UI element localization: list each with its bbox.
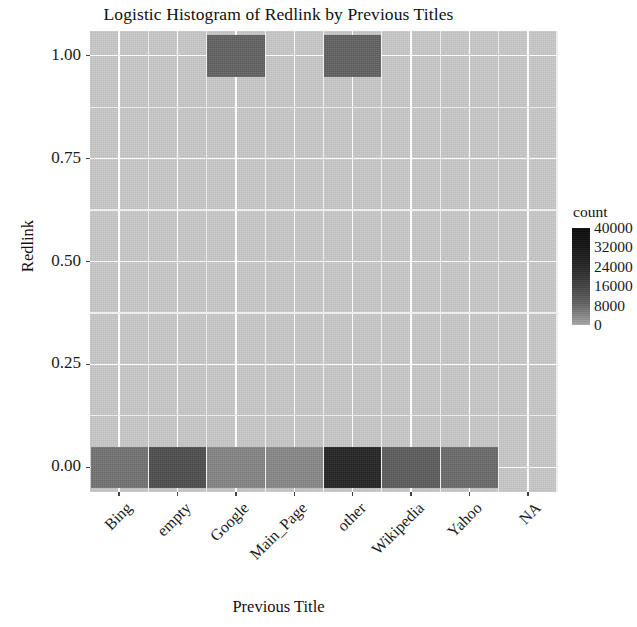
tile-texture xyxy=(207,35,264,77)
gridline-horizontal-minor xyxy=(90,107,557,108)
heatmap-tile xyxy=(266,447,323,488)
legend-tick-label: 16000 xyxy=(594,277,633,295)
chart-canvas: Logistic Histogram of Redlink by Previou… xyxy=(0,0,637,627)
heatmap-tile xyxy=(91,447,148,488)
heatmap-tile xyxy=(324,447,381,488)
x-tick-mark xyxy=(527,492,528,496)
heatmap-tile xyxy=(149,447,206,488)
tile-texture xyxy=(207,447,264,488)
x-tick-mark xyxy=(410,492,411,496)
y-tick-mark xyxy=(86,261,90,262)
chart-title: Logistic Histogram of Redlink by Previou… xyxy=(0,4,557,25)
gridline-horizontal-minor xyxy=(90,209,557,210)
x-tick-mark xyxy=(177,492,178,496)
gridline-horizontal xyxy=(90,261,557,263)
y-tick-mark xyxy=(86,364,90,365)
tile-texture xyxy=(441,447,498,488)
gridline-horizontal-minor xyxy=(90,312,557,313)
legend-tick-label: 24000 xyxy=(594,258,633,276)
heatmap-tile xyxy=(207,447,264,488)
x-tick-mark xyxy=(352,492,353,496)
legend-tick-label: 8000 xyxy=(594,297,625,315)
gridline-horizontal xyxy=(90,158,557,160)
legend-tick-label: 0 xyxy=(594,316,602,334)
heatmap-tile xyxy=(207,35,264,77)
y-tick-mark xyxy=(86,55,90,56)
y-tick-mark xyxy=(86,158,90,159)
y-tick-label: 0.75 xyxy=(25,148,81,168)
x-tick-mark xyxy=(235,492,236,496)
legend-gradient-bar xyxy=(572,228,590,325)
x-tick-mark xyxy=(118,492,119,496)
y-tick-label: 1.00 xyxy=(25,45,81,65)
y-tick-label: 0.00 xyxy=(25,456,81,476)
y-tick-mark xyxy=(86,467,90,468)
tile-texture xyxy=(149,447,206,488)
y-tick-label: 0.25 xyxy=(25,353,81,373)
legend-bar-texture xyxy=(572,228,590,325)
tile-texture xyxy=(324,447,381,488)
x-axis-title: Previous Title xyxy=(0,597,557,617)
gridline-horizontal xyxy=(90,364,557,366)
legend-tick-label: 32000 xyxy=(594,238,633,256)
y-axis-title: Redlink xyxy=(18,166,38,326)
tile-texture xyxy=(324,35,381,77)
plot-panel xyxy=(90,31,557,492)
tile-texture xyxy=(382,447,439,488)
heatmap-tile xyxy=(441,447,498,488)
heatmap-tile xyxy=(324,35,381,77)
heatmap-tile xyxy=(382,447,439,488)
tile-texture xyxy=(91,447,148,488)
x-tick-mark xyxy=(469,492,470,496)
legend-tick-label: 40000 xyxy=(594,219,633,237)
x-tick-mark xyxy=(294,492,295,496)
tile-texture xyxy=(266,447,323,488)
gridline-horizontal-minor xyxy=(90,415,557,416)
